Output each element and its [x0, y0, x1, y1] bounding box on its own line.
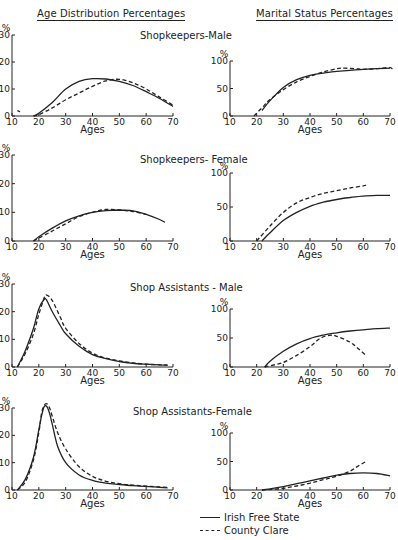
county-clare-line [17, 404, 167, 490]
y-axis-label: % [2, 396, 11, 406]
y-tick-label: 20 [0, 179, 10, 189]
x-tick-label: 30 [278, 491, 290, 501]
x-tick-label: 20 [251, 117, 263, 127]
age-shop-assistants-male-chart: 010203010203040506070%Ages [0, 272, 179, 386]
marital-shop-assistants-female-chart: 05010010203040506070%Ages [211, 421, 396, 509]
x-tick-label: 60 [358, 117, 370, 127]
x-axis-label: Ages [80, 249, 105, 260]
x-axis-label: Ages [80, 498, 105, 509]
y-tick-label: 50 [217, 202, 229, 212]
x-tick-label: 20 [251, 242, 263, 252]
x-tick-label: 30 [278, 368, 290, 378]
x-tick-label: 50 [331, 242, 343, 252]
irish-free-state-line [17, 406, 167, 490]
x-tick-label: 70 [167, 368, 179, 378]
x-tick-label: 60 [140, 117, 152, 127]
y-axis-label: % [220, 161, 229, 171]
irish-free-state-line [265, 328, 390, 367]
x-tick-label: 20 [33, 368, 45, 378]
x-tick-label: 10 [224, 117, 236, 127]
x-axis-label: Ages [298, 375, 323, 386]
x-tick-label: 20 [251, 491, 263, 501]
x-tick-label: 20 [33, 491, 45, 501]
x-tick-label: 70 [384, 491, 396, 501]
county-clare-line [257, 185, 366, 241]
irish-free-state-line [262, 68, 390, 110]
marital-shopkeepers-female-chart: 05010010203040506070%Ages [211, 161, 396, 260]
y-axis-label: % [2, 272, 11, 282]
y-tick-label: 20 [0, 307, 10, 317]
y-tick-label: 10 [0, 84, 10, 94]
dashed-line-swatch-icon [200, 530, 220, 531]
x-tick-label: 10 [224, 242, 236, 252]
y-tick-label: 20 [0, 57, 10, 67]
x-tick-label: 60 [358, 491, 370, 501]
marital-shopkeepers-male-chart: 05010010203040506070%Ages [211, 49, 396, 135]
x-tick-label: 60 [140, 368, 152, 378]
age-shop-assistants-female-chart: 010203010203040506070%Ages [0, 396, 179, 509]
x-tick-label: 70 [384, 368, 396, 378]
x-tick-label: 70 [167, 491, 179, 501]
county-clare-line [265, 335, 366, 367]
county-clare-line [17, 111, 20, 112]
x-tick-label: 20 [251, 368, 263, 378]
y-tick-label: 10 [0, 458, 10, 468]
x-tick-label: 30 [60, 491, 72, 501]
irish-free-state-line [17, 298, 167, 367]
x-tick-label: 60 [358, 368, 370, 378]
x-tick-label: 30 [60, 368, 72, 378]
marital-shop-assistants-male-chart: 05010010203040506070%Ages [211, 297, 396, 386]
county-clare-line [34, 79, 174, 116]
x-tick-label: 70 [384, 117, 396, 127]
x-tick-label: 50 [114, 368, 126, 378]
x-axis-label: Ages [80, 375, 105, 386]
x-tick-label: 60 [140, 491, 152, 501]
x-tick-label: 30 [60, 117, 72, 127]
county-clare-line [254, 68, 393, 116]
x-tick-label: 30 [278, 117, 290, 127]
legend-label: Irish Free State [224, 512, 299, 523]
irish-free-state-line [262, 473, 390, 490]
x-tick-label: 60 [358, 242, 370, 252]
y-axis-label: % [220, 297, 229, 307]
x-tick-label: 50 [331, 368, 343, 378]
x-tick-label: 50 [114, 117, 126, 127]
x-tick-label: 70 [384, 242, 396, 252]
x-tick-label: 30 [60, 242, 72, 252]
y-axis-label: % [2, 143, 11, 153]
x-tick-label: 50 [331, 117, 343, 127]
y-tick-label: 20 [0, 430, 10, 440]
x-tick-label: 50 [114, 242, 126, 252]
x-tick-label: 50 [114, 491, 126, 501]
legend-label: County Clare [224, 525, 289, 536]
y-tick-label: 10 [0, 207, 10, 217]
irish-free-state-line [262, 195, 390, 241]
x-tick-label: 20 [33, 242, 45, 252]
irish-free-state-line [34, 79, 174, 116]
x-tick-label: 10 [224, 491, 236, 501]
legend-item-irish-free-state: Irish Free State [200, 512, 299, 523]
x-tick-label: 10 [6, 491, 18, 501]
x-tick-label: 10 [6, 368, 18, 378]
x-tick-label: 20 [33, 117, 45, 127]
x-tick-label: 10 [6, 242, 18, 252]
x-axis-label: Ages [80, 124, 105, 135]
y-axis-label: % [220, 421, 229, 431]
y-tick-label: 50 [217, 84, 229, 94]
county-clare-line [262, 462, 366, 491]
x-tick-label: 30 [278, 242, 290, 252]
x-tick-label: 70 [167, 242, 179, 252]
x-tick-label: 60 [140, 242, 152, 252]
y-axis-label: % [2, 23, 11, 33]
x-tick-label: 10 [6, 117, 18, 127]
y-axis-label: % [220, 49, 229, 59]
legend-item-county-clare: County Clare [200, 525, 289, 536]
age-shopkeepers-female-chart: 010203010203040506070%Ages [0, 143, 179, 260]
x-axis-label: Ages [298, 498, 323, 509]
charts-canvas: 010203010203040506070%Ages05010010203040… [0, 0, 398, 540]
age-shopkeepers-male-chart: 010203010203040506070%Ages [0, 23, 179, 135]
y-tick-label: 50 [217, 333, 229, 343]
y-tick-label: 50 [217, 457, 229, 467]
x-axis-label: Ages [298, 249, 323, 260]
county-clare-line [34, 209, 147, 241]
